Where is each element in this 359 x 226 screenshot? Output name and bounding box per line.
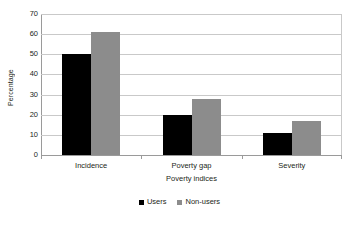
y-axis-tick-label: 20 (30, 111, 38, 119)
bars-layer (41, 14, 342, 155)
chart-legend: UsersNon-users (0, 198, 359, 206)
bar (263, 133, 292, 155)
x-axis-tick-mark (41, 155, 42, 159)
plot-area (41, 14, 342, 155)
y-axis-tick-label: 70 (30, 10, 38, 18)
x-axis-tick-label: Poverty gap (171, 161, 211, 171)
x-axis-tick-mark (341, 155, 342, 159)
x-axis-tick-mark (141, 155, 142, 159)
bar (163, 115, 192, 155)
legend-swatch-icon (139, 200, 144, 205)
bar (292, 121, 321, 155)
x-axis-tick-mark (242, 155, 243, 159)
y-axis-tick-label: 30 (30, 91, 38, 99)
y-axis-tick-labels: 010203040506070 (18, 14, 38, 155)
x-axis-category-labels: IncidencePoverty gapSeverity (41, 161, 342, 173)
legend-entry: Non-users (177, 198, 220, 206)
y-axis-tick-label: 0 (34, 151, 38, 159)
bar (62, 54, 91, 155)
bar (192, 99, 221, 155)
legend-entry: Users (139, 198, 167, 206)
x-axis-tick-label: Incidence (75, 161, 107, 171)
gridline (41, 155, 342, 156)
y-axis-tick-label: 40 (30, 70, 38, 78)
x-axis-title: Poverty indices (41, 174, 342, 183)
legend-label: Users (147, 198, 167, 206)
y-axis-title: Percentage (3, 48, 17, 128)
y-axis-tick-label: 50 (30, 50, 38, 58)
bar (91, 32, 120, 155)
x-axis-tick-label: Severity (278, 161, 305, 171)
bar-chart-figure: Percentage 010203040506070 IncidencePove… (0, 0, 359, 226)
legend-label: Non-users (185, 198, 220, 206)
legend-swatch-icon (177, 200, 182, 205)
y-axis-tick-label: 10 (30, 131, 38, 139)
y-axis-tick-label: 60 (30, 30, 38, 38)
